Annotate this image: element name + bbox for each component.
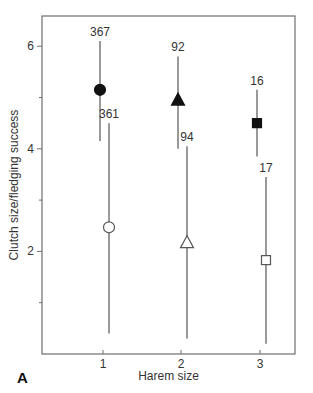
sample-size-label: 16 (250, 74, 264, 88)
open-triangle-marker (181, 236, 194, 248)
filled-square-marker (253, 119, 262, 128)
open-square-marker (262, 256, 271, 265)
y-tick-label: 6 (27, 39, 34, 53)
plot-frame (42, 16, 295, 354)
sample-size-label: 361 (99, 107, 119, 121)
open-circle-marker (104, 222, 115, 233)
panel-label: A (17, 369, 28, 386)
filled-triangle-marker (172, 93, 185, 105)
sample-size-label: 17 (259, 161, 273, 175)
chart-plot: 246123 36792163619417 (0, 0, 313, 393)
sample-size-label: 367 (90, 25, 110, 39)
axes: 246123 (27, 16, 295, 371)
filled-circle-marker (95, 84, 106, 95)
sample-size-label: 94 (180, 130, 194, 144)
x-axis-label: Harem size (0, 369, 313, 383)
y-tick-label: 2 (27, 244, 34, 258)
y-axis-label: Clutch size/fledging success (7, 110, 21, 261)
sample-size-label: 92 (171, 40, 185, 54)
data-series: 36792163619417 (90, 25, 273, 344)
y-tick-label: 4 (27, 142, 34, 156)
